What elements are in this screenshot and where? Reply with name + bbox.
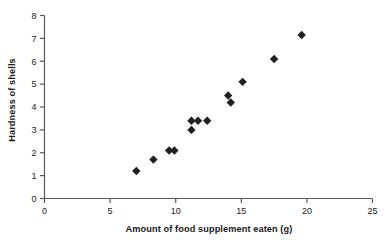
y-tick-label: 5 xyxy=(31,79,36,89)
y-tick-label: 7 xyxy=(31,34,36,44)
data-point-marker xyxy=(238,78,246,86)
data-point-marker xyxy=(270,55,278,63)
y-tick-label: 3 xyxy=(31,125,36,135)
data-point-marker xyxy=(297,31,305,39)
x-tick-label: 20 xyxy=(302,206,312,216)
data-point-marker xyxy=(203,117,211,125)
data-point-marker xyxy=(194,117,202,125)
y-tick-label: 2 xyxy=(31,148,36,158)
y-tick-label: 6 xyxy=(31,57,36,67)
x-tick-label: 10 xyxy=(171,206,181,216)
data-point-marker xyxy=(170,146,178,154)
data-point-marker xyxy=(227,98,235,106)
x-axis-title: Amount of food supplement eaten (g) xyxy=(44,224,374,234)
plot-area: 0510152025012345678 xyxy=(0,0,390,247)
data-point-marker xyxy=(224,91,232,99)
scatter-chart: Hardness of shells 0510152025012345678 A… xyxy=(0,0,390,247)
y-tick-label: 0 xyxy=(31,194,36,204)
y-tick-label: 4 xyxy=(31,102,36,112)
data-point-marker xyxy=(132,167,140,175)
x-tick-label: 5 xyxy=(108,206,113,216)
x-tick-label: 15 xyxy=(236,206,246,216)
x-tick-label: 0 xyxy=(42,206,47,216)
x-tick-label: 25 xyxy=(367,206,377,216)
data-point-marker xyxy=(187,126,195,134)
y-tick-label: 8 xyxy=(31,11,36,21)
y-tick-label: 1 xyxy=(31,171,36,181)
data-point-marker xyxy=(149,155,157,163)
